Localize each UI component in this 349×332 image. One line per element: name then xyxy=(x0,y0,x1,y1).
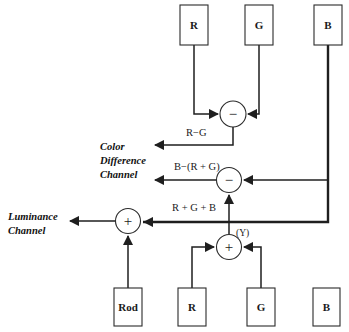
node-bottom-rod-label: Rod xyxy=(118,301,138,313)
operator-subtract-b-rg: − xyxy=(217,168,242,193)
node-bottom-g: G xyxy=(247,288,275,326)
node-top-g-label: G xyxy=(255,19,264,31)
wire-top-g-to-subtract xyxy=(248,45,259,114)
node-top-r: R xyxy=(180,5,208,45)
label-y: (Y) xyxy=(236,228,249,239)
operator-sum-luminance-symbol: + xyxy=(124,213,132,229)
node-bottom-b-label: B xyxy=(323,301,331,313)
label-r-minus-g: R−G xyxy=(186,127,207,138)
node-bottom-rod: Rod xyxy=(114,288,142,326)
operator-sum-rgb-symbol: + xyxy=(225,239,233,255)
wire-top-r-to-subtract xyxy=(194,45,218,114)
node-bottom-r-label: R xyxy=(188,301,197,313)
operator-subtract-b-rg-symbol: − xyxy=(225,172,233,188)
node-top-r-label: R xyxy=(190,19,199,31)
wire-top-b-main-trunk xyxy=(143,45,328,222)
operator-subtract-rg-symbol: − xyxy=(229,106,237,122)
label-r-plus-g-plus-b: R + G + B xyxy=(172,202,216,213)
label-b-minus-r-plus-g: B−(R + G) xyxy=(174,161,220,173)
label-color-difference-line1: Color xyxy=(100,141,125,152)
node-top-b: B xyxy=(314,5,342,45)
operator-sum-rgb: + xyxy=(217,235,242,260)
node-bottom-b: B xyxy=(313,288,340,326)
node-top-b-label: B xyxy=(324,19,332,31)
operator-subtract-rg: − xyxy=(220,101,246,127)
wire-bottom-r-to-sum xyxy=(192,247,214,288)
label-color-difference-channel: Color Difference Channel xyxy=(99,141,146,180)
label-luminance-line1: Luminance xyxy=(7,211,58,222)
wire-bottom-g-to-sum xyxy=(244,247,261,288)
node-bottom-r: R xyxy=(178,288,206,326)
node-bottom-g-label: G xyxy=(257,301,266,313)
diagram-canvas: R G B − − + + Rod xyxy=(0,0,349,332)
node-top-g: G xyxy=(245,5,273,45)
label-color-difference-line2: Difference xyxy=(99,155,146,166)
signal-flow-diagram: R G B − − + + Rod xyxy=(0,0,349,332)
label-color-difference-line3: Channel xyxy=(100,169,137,180)
label-luminance-line2: Channel xyxy=(8,225,45,236)
operator-sum-luminance: + xyxy=(116,209,141,234)
label-luminance-channel: Luminance Channel xyxy=(7,211,58,236)
